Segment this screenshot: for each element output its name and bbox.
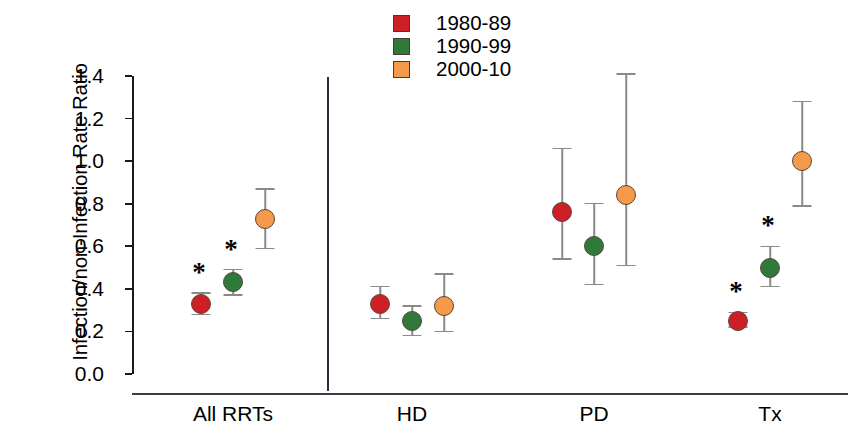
y-tick-label: 0.6 <box>44 235 104 256</box>
data-point[interactable] <box>552 202 572 222</box>
error-bar-cap-lower <box>435 331 454 333</box>
error-bar-cap-lower <box>585 284 604 286</box>
significance-star: * <box>192 259 206 286</box>
error-bar-cap-upper <box>617 73 636 75</box>
legend-swatch-icon <box>393 15 410 32</box>
data-point[interactable] <box>728 311 748 331</box>
data-point[interactable] <box>223 272 243 292</box>
data-point[interactable] <box>760 258 780 278</box>
plot-area: 0.00.20.40.60.81.01.21.4 **** <box>132 76 848 374</box>
legend-label: 1980-89 <box>436 13 511 34</box>
error-bar-cap-lower <box>617 265 636 267</box>
error-bar-cap-lower <box>224 294 243 296</box>
legend-label: 2000-10 <box>436 59 511 80</box>
significance-star: * <box>729 278 743 305</box>
error-bar-cap-lower <box>403 335 422 337</box>
y-tick-label: 0.8 <box>44 193 104 214</box>
y-tick-label: 1.4 <box>44 65 104 86</box>
error-bar-cap-lower <box>256 248 275 250</box>
error-bar-cap-upper <box>256 188 275 190</box>
legend-swatch-icon <box>393 38 410 55</box>
data-point[interactable] <box>792 151 812 171</box>
x-axis-label-pd: PD <box>579 402 608 426</box>
legend-item[interactable]: 1980-89 <box>393 12 511 35</box>
legend-item[interactable]: 1990-99 <box>393 35 511 58</box>
y-tick-label: 1.2 <box>44 108 104 129</box>
x-axis-label-all-rrts: All RRTs <box>193 402 273 426</box>
y-axis-line <box>132 76 134 374</box>
y-tick-mark <box>125 373 132 375</box>
y-tick-mark <box>125 75 132 77</box>
error-bar-cap-upper <box>793 101 812 103</box>
chart-legend: 1980-891990-992000-10 <box>393 12 511 81</box>
error-bar-cap-lower <box>371 318 390 320</box>
error-bar-cap-upper <box>403 305 422 307</box>
error-bar-cap-upper <box>761 246 780 248</box>
data-point[interactable] <box>402 311 422 331</box>
y-tick-label: 1.0 <box>44 150 104 171</box>
y-tick-label: 0.0 <box>44 363 104 384</box>
y-tick-mark <box>125 160 132 162</box>
data-point[interactable] <box>255 209 275 229</box>
error-bar-cap-upper <box>435 273 454 275</box>
error-bar-cap-upper <box>224 269 243 271</box>
data-point[interactable] <box>191 294 211 314</box>
error-bar-cap-lower <box>192 314 211 316</box>
error-bar <box>625 74 627 266</box>
error-bar-cap-lower <box>553 258 572 260</box>
y-tick-mark <box>125 203 132 205</box>
x-axis-label-hd: HD <box>397 402 427 426</box>
error-bar-cap-upper <box>553 148 572 150</box>
error-bar-cap-upper <box>585 203 604 205</box>
significance-star: * <box>224 236 238 263</box>
data-point[interactable] <box>370 294 390 314</box>
legend-item[interactable]: 2000-10 <box>393 58 511 81</box>
y-tick-label: 0.4 <box>44 278 104 299</box>
legend-swatch-icon <box>393 61 410 78</box>
y-tick-mark <box>125 288 132 290</box>
data-point[interactable] <box>584 236 604 256</box>
y-tick-mark <box>125 331 132 333</box>
legend-label: 1990-99 <box>436 36 511 57</box>
significance-star: * <box>761 212 775 239</box>
data-point[interactable] <box>434 296 454 316</box>
y-tick-mark <box>125 245 132 247</box>
error-bar-cap-lower <box>761 286 780 288</box>
chart-container: Infection/non-Infection Rate Ratio 0.00.… <box>0 0 864 444</box>
y-tick-label: 0.2 <box>44 320 104 341</box>
x-axis-line <box>132 393 848 395</box>
data-point[interactable] <box>616 185 636 205</box>
y-tick-mark <box>125 118 132 120</box>
x-axis-label-tx: Tx <box>758 402 781 426</box>
error-bar-cap-upper <box>371 286 390 288</box>
error-bar-cap-lower <box>793 205 812 207</box>
